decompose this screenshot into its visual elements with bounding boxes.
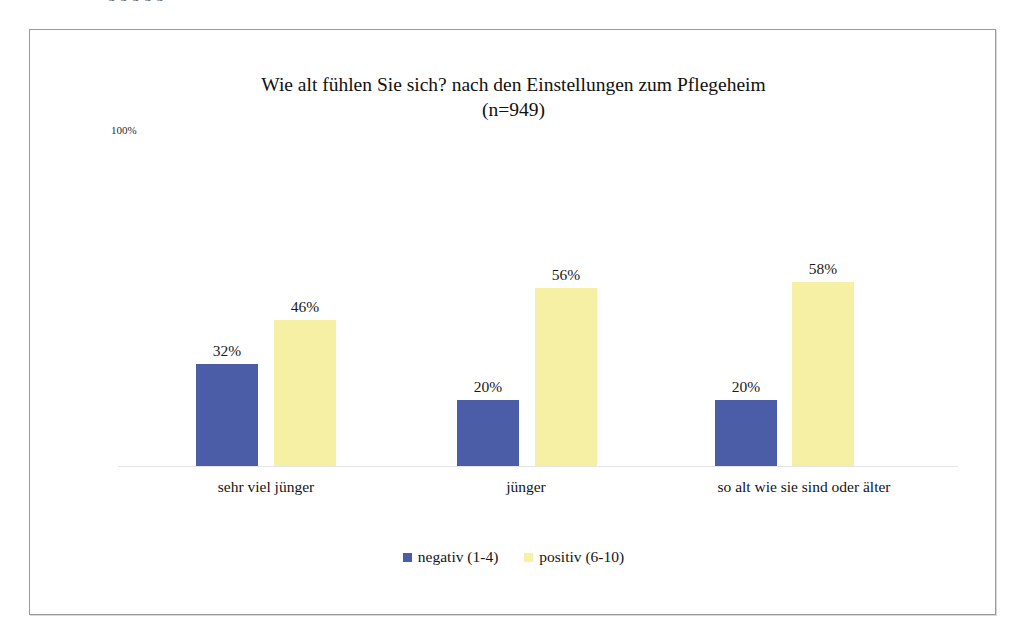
bar-value-label: 58% <box>792 260 854 278</box>
axis-baseline <box>118 466 958 467</box>
legend-label-positiv: positiv (6-10) <box>539 548 624 566</box>
legend-entry-negativ[interactable]: negativ (1-4) <box>403 548 498 566</box>
bar-rect-negativ[interactable] <box>457 400 519 466</box>
bar-rect-positiv[interactable] <box>535 288 597 466</box>
bar-value-label: 32% <box>196 342 258 360</box>
cut-off-text-strip: g g g g g , , <box>0 0 1023 14</box>
cut-off-text: g g g g g , , <box>108 0 181 2</box>
bar-rect-positiv[interactable] <box>274 320 336 466</box>
legend-swatch-positiv-icon <box>524 553 533 562</box>
plot-area: 32% 46% sehr viel jünger 20% 56% jünger … <box>30 30 997 616</box>
category-label-1: jünger <box>416 478 636 496</box>
legend-swatch-negativ-icon <box>403 553 412 562</box>
bar-rect-negativ[interactable] <box>196 364 258 466</box>
bar-rect-negativ[interactable] <box>715 400 777 466</box>
bar-value-label: 20% <box>457 378 519 396</box>
bar-value-label: 20% <box>715 378 777 396</box>
bar-value-label: 56% <box>535 266 597 284</box>
bar-rect-positiv[interactable] <box>792 282 854 466</box>
legend-entry-positiv[interactable]: positiv (6-10) <box>524 548 624 566</box>
chart-legend: negativ (1-4) positiv (6-10) <box>30 548 997 566</box>
category-label-0: sehr viel jünger <box>156 478 376 496</box>
bar-value-label: 46% <box>274 298 336 316</box>
chart-frame: Wie alt fühlen Sie sich? nach den Einste… <box>29 29 996 615</box>
category-label-2: so alt wie sie sind oder älter <box>673 478 935 496</box>
legend-label-negativ: negativ (1-4) <box>418 548 498 566</box>
